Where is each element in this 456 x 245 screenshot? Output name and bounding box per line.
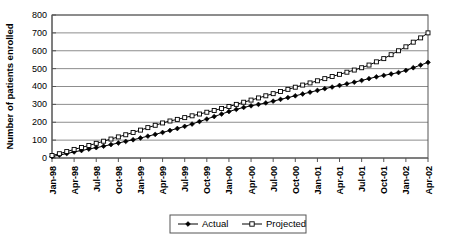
data-point-marker <box>345 81 350 86</box>
data-point-marker <box>396 70 401 75</box>
data-point-marker <box>411 65 416 70</box>
data-point-marker <box>65 150 69 154</box>
y-tick-label: 600 <box>32 46 47 56</box>
data-point-marker <box>50 153 54 157</box>
x-tick-label: Jan-00 <box>224 166 234 195</box>
data-point-marker <box>330 74 334 78</box>
data-point-marker <box>183 116 187 120</box>
data-point-marker <box>160 130 165 135</box>
data-point-marker <box>360 66 364 70</box>
data-point-marker <box>109 142 114 147</box>
data-point-marker <box>145 134 150 139</box>
data-point-marker <box>404 45 408 49</box>
data-point-marker <box>323 77 327 81</box>
data-point-marker <box>389 53 393 57</box>
data-point-marker <box>79 145 83 149</box>
y-tick-label: 100 <box>32 135 47 145</box>
data-point-marker <box>102 139 106 143</box>
data-point-marker <box>337 83 342 88</box>
data-point-marker <box>426 60 431 65</box>
x-tick-label: Jul-00 <box>269 166 279 192</box>
series-actual <box>50 60 431 159</box>
data-point-marker <box>256 96 260 100</box>
data-point-marker <box>190 114 194 118</box>
data-point-marker <box>293 85 297 89</box>
data-point-marker <box>308 81 312 85</box>
y-tick-label: 300 <box>32 99 47 109</box>
data-point-marker <box>315 79 319 83</box>
data-point-marker <box>271 92 275 96</box>
data-point-marker <box>116 135 120 139</box>
data-point-marker <box>124 133 128 137</box>
data-point-marker <box>374 74 379 79</box>
x-tick-label: Apr-02 <box>424 166 434 195</box>
data-point-marker <box>138 136 143 141</box>
series-projected <box>50 31 430 158</box>
x-tick-label: Jul-98 <box>92 166 102 192</box>
data-point-marker <box>293 93 298 98</box>
chart-legend: ActualProjected <box>170 215 306 233</box>
y-tick-label: 700 <box>32 28 47 38</box>
data-point-marker <box>426 31 430 35</box>
data-point-marker <box>168 128 173 133</box>
data-point-marker <box>338 72 342 76</box>
y-axis-title: Number of patients enrolled <box>4 23 15 149</box>
data-point-marker <box>234 102 238 106</box>
data-point-marker <box>367 63 371 67</box>
data-point-marker <box>197 112 201 116</box>
data-point-marker <box>352 80 357 85</box>
series-line-actual <box>52 62 428 156</box>
data-point-marker <box>315 88 320 93</box>
x-tick-label: Jul-99 <box>180 166 190 192</box>
data-point-marker <box>411 40 415 44</box>
data-point-marker <box>330 85 335 90</box>
x-tick-label: Jan-01 <box>313 166 323 195</box>
data-point-marker <box>279 90 283 94</box>
x-tick-label: Oct-99 <box>202 166 212 194</box>
data-point-marker <box>418 63 423 68</box>
data-point-marker <box>242 100 246 104</box>
data-point-marker <box>345 70 349 74</box>
data-point-marker <box>131 137 136 142</box>
data-point-marker <box>278 97 283 102</box>
data-point-marker <box>374 60 378 64</box>
data-point-marker <box>359 78 364 83</box>
data-point-marker <box>153 132 158 137</box>
data-point-marker <box>197 119 202 124</box>
x-tick-label: Oct-98 <box>114 166 124 194</box>
data-point-marker <box>300 92 305 97</box>
data-point-marker <box>204 117 209 122</box>
data-point-marker <box>241 105 246 110</box>
legend-marker <box>250 222 254 226</box>
data-point-marker <box>101 144 106 149</box>
y-tick-label: 0 <box>42 153 47 163</box>
x-tick-label: Apr-99 <box>158 166 168 195</box>
x-tick-label: Jan-99 <box>136 166 146 195</box>
legend-label: Actual <box>202 218 228 229</box>
data-point-marker <box>352 68 356 72</box>
x-tick-label: Apr-98 <box>70 166 80 195</box>
x-tick-label: Apr-00 <box>247 166 257 195</box>
data-point-marker <box>57 152 61 156</box>
data-point-marker <box>234 107 239 112</box>
legend-label: Projected <box>266 218 306 229</box>
data-point-marker <box>116 141 121 146</box>
x-axis-ticks: Jan-98Apr-98Jul-98Oct-98Jan-99Apr-99Jul-… <box>48 158 434 195</box>
data-point-marker <box>367 76 372 81</box>
data-point-marker <box>249 98 253 102</box>
y-tick-label: 800 <box>32 10 47 20</box>
x-tick-label: Jan-02 <box>401 166 411 195</box>
data-point-marker <box>153 123 157 127</box>
x-tick-label: Jan-98 <box>48 166 58 195</box>
data-point-marker <box>322 86 327 91</box>
data-point-marker <box>389 72 394 77</box>
data-point-marker <box>381 73 386 78</box>
data-point-marker <box>271 99 276 104</box>
data-point-marker <box>146 126 150 130</box>
data-point-marker <box>109 137 113 141</box>
chart-container: 0100200300400500600700800 Jan-98Apr-98Ju… <box>0 0 456 245</box>
data-point-marker <box>227 109 232 114</box>
data-point-marker <box>87 143 91 147</box>
grid-lines <box>52 15 428 158</box>
data-point-marker <box>94 145 99 150</box>
